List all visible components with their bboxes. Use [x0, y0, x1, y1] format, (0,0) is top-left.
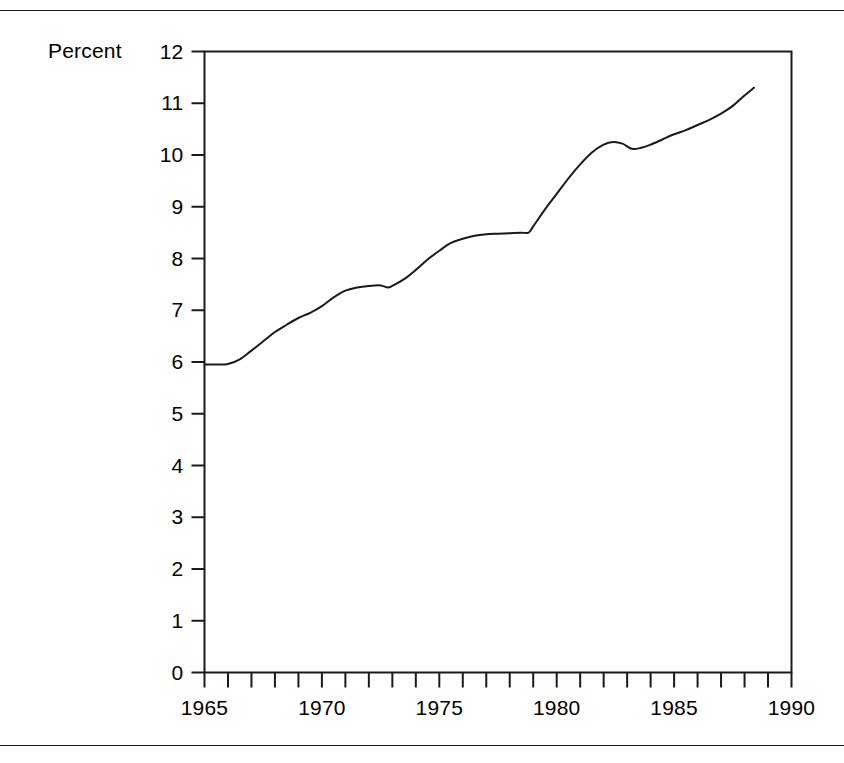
y-tick-label: 6: [142, 351, 184, 372]
plot-frame: [205, 52, 792, 673]
y-tick-label: 11: [142, 92, 184, 113]
y-tick-label: 7: [142, 299, 184, 320]
y-tick-label: 5: [142, 403, 184, 424]
y-tick-label: 0: [142, 662, 184, 683]
x-tick-label: 1965: [160, 697, 250, 718]
y-tick-label: 9: [142, 196, 184, 217]
y-tick-label: 12: [142, 41, 184, 62]
plot-area: [0, 0, 844, 763]
y-tick-label: 4: [142, 455, 184, 476]
x-minor-ticks: [205, 673, 792, 688]
y-tick-label: 2: [142, 558, 184, 579]
y-tick-label: 3: [142, 506, 184, 527]
y-tick-label: 1: [142, 610, 184, 631]
x-tick-label: 1970: [277, 697, 367, 718]
x-tick-label: 1975: [394, 697, 484, 718]
x-tick-label: 1990: [747, 697, 837, 718]
y-tick-label: 8: [142, 248, 184, 269]
y-ticks: [192, 52, 205, 673]
data-series: [205, 88, 754, 365]
chart-figure: Percent 0123456789101112 196519701975198…: [0, 0, 844, 763]
x-tick-label: 1985: [629, 697, 719, 718]
series-line-0: [205, 88, 754, 365]
x-tick-label: 1980: [512, 697, 602, 718]
y-tick-label: 10: [142, 144, 184, 165]
